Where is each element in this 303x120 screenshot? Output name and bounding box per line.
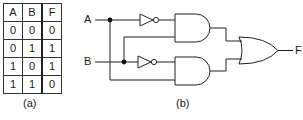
logic-circuit — [0, 0, 303, 120]
output-label-f: F — [295, 44, 302, 56]
input-label-b: B — [84, 55, 91, 67]
junction-dot-a — [108, 18, 113, 23]
not-gate-a — [140, 14, 153, 26]
junction-dot-b — [122, 60, 127, 65]
not-gate-b — [138, 56, 151, 68]
or-gate — [239, 37, 278, 64]
input-label-a: A — [84, 13, 91, 25]
caption-b: (b) — [176, 97, 189, 109]
and-gate-bottom — [175, 57, 210, 85]
and-gate-top — [175, 14, 210, 42]
